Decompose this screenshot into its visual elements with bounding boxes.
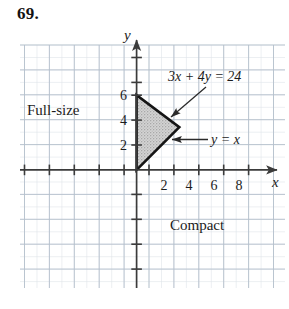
identity-equation-label: y = x [211, 133, 240, 147]
figure-page: 69. [0, 0, 289, 309]
y-tick-label-4: 4 [109, 113, 127, 129]
x-tick-label-6: 6 [205, 178, 223, 194]
x-tick-label-4: 4 [180, 178, 198, 194]
grid-major [20, 45, 285, 288]
y-axis-label: y [124, 28, 131, 43]
y-tick-label-2: 2 [109, 138, 127, 154]
feasible-region [137, 95, 180, 170]
x-tick-label-8: 8 [230, 178, 248, 194]
constraint-line-leader [171, 87, 206, 117]
x-tick-label-2: 2 [155, 178, 173, 194]
constraint-equation-label: 3x + 4y = 24 [168, 70, 241, 84]
grid-minor [20, 45, 285, 288]
y-tick-label-6: 6 [109, 88, 127, 104]
coordinate-graph [0, 0, 289, 309]
region-label-compact: Compact [170, 218, 224, 233]
x-axis [20, 165, 277, 176]
region-label-full-size: Full-size [27, 103, 80, 118]
x-axis-label: x [272, 175, 279, 190]
